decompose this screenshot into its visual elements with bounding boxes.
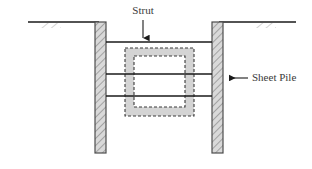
braced-excavation-diagram: Strut Sheet Pile: [0, 0, 312, 169]
sheet-pile-label: Sheet Pile: [252, 71, 296, 83]
sheet-pile-wall-left: [95, 22, 106, 153]
left-wall-hatch: [95, 22, 106, 153]
ground-hatch-left: [39, 23, 61, 28]
sheet-pile-wall-right: [212, 22, 223, 153]
diagram-canvas: Strut Sheet Pile: [0, 0, 312, 169]
strut-label: Strut: [132, 4, 153, 16]
ground-hatch-right: [254, 23, 276, 28]
right-wall-hatch: [212, 22, 223, 153]
